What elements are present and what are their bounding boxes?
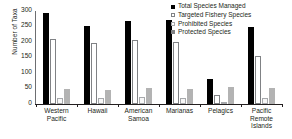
legend-swatch-icon — [171, 5, 175, 9]
legend-label: Protected Species — [178, 29, 231, 36]
legend-label: Targeted Fishery Species — [178, 12, 251, 19]
legend-item[interactable]: Protected Species — [171, 29, 251, 36]
y-tick-label: 150 — [21, 53, 32, 60]
bar — [207, 79, 213, 104]
x-tick-label: PacificRemoteIslands — [241, 107, 282, 130]
y-tick-label: 200 — [21, 38, 32, 45]
bar — [105, 90, 111, 104]
legend-swatch-icon — [171, 30, 175, 34]
x-tick-label: Marianas — [159, 107, 200, 115]
y-tick-label: 50 — [25, 84, 32, 91]
bar — [146, 88, 152, 104]
x-tick-mark — [77, 104, 78, 107]
bar-chart: Number of Taxa 050100150200250300 Wester… — [0, 0, 292, 139]
bar — [125, 21, 131, 104]
y-tick-label: 100 — [21, 69, 32, 76]
bar — [255, 56, 261, 104]
y-tick-label: 300 — [21, 7, 32, 14]
y-axis-tick-labels: 050100150200250300 — [8, 10, 32, 105]
bar — [84, 26, 90, 104]
legend-label: Prohibited Species — [178, 21, 232, 28]
y-tick-label: 250 — [21, 22, 32, 29]
x-tick-mark — [241, 104, 242, 107]
legend-label: Total Species Managed — [178, 3, 246, 10]
x-axis-tick-labels: WesternPacificHawaiiAmericanSamoaMariana… — [36, 107, 286, 137]
legend-item[interactable]: Prohibited Species — [171, 20, 251, 27]
legend-swatch-icon — [171, 13, 175, 17]
bar — [269, 88, 275, 104]
x-tick-mark — [200, 104, 201, 107]
x-tick-label: WesternPacific — [36, 107, 77, 122]
bar — [50, 39, 56, 104]
bar — [91, 43, 97, 104]
bar — [132, 40, 138, 104]
bar-group — [124, 11, 154, 104]
bar-group — [42, 11, 72, 104]
legend-item[interactable]: Total Species Managed — [171, 3, 251, 10]
bar — [228, 87, 234, 104]
bar — [173, 42, 179, 104]
y-tick-label: 0 — [28, 100, 32, 107]
legend: Total Species ManagedTargeted Fishery Sp… — [171, 3, 251, 36]
x-tick-mark — [118, 104, 119, 107]
x-tick-label: Pelagics — [200, 107, 241, 115]
bar-group — [83, 11, 113, 104]
legend-item[interactable]: Targeted Fishery Species — [171, 12, 251, 19]
bar — [248, 27, 254, 105]
legend-swatch-icon — [171, 22, 175, 26]
x-tick-mark — [282, 104, 283, 107]
x-tick-label: Hawaii — [77, 107, 118, 115]
bar — [187, 89, 193, 105]
x-tick-label: AmericanSamoa — [118, 107, 159, 122]
bar — [64, 89, 70, 104]
bar — [43, 13, 49, 104]
x-tick-mark — [36, 104, 37, 107]
x-tick-mark — [159, 104, 160, 107]
